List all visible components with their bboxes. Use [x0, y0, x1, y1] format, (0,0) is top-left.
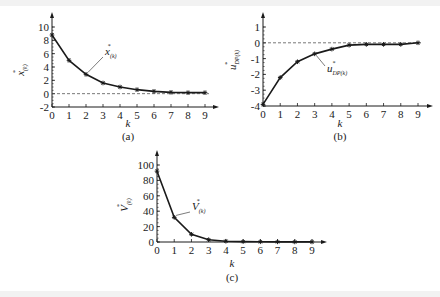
x-tick-label: 7 [168, 109, 174, 121]
annotation-leader [88, 57, 103, 72]
asterisk-marker-icon [155, 169, 160, 174]
chart-panel-c: 0123456789020406080100V(k)*V(k)*k(c) [116, 150, 327, 284]
x-tick-label: 2 [189, 244, 195, 256]
x-tick-label: 6 [258, 244, 264, 256]
asterisk-marker-icon [398, 42, 403, 47]
asterisk-marker-icon [330, 47, 335, 52]
y-tick-label: 10 [38, 21, 50, 33]
x-tick-label: 3 [312, 108, 318, 120]
x-axis-label: k [230, 257, 236, 269]
x-tick-label: 5 [346, 108, 352, 120]
asterisk-marker-icon [186, 90, 191, 95]
chart-panel-a: 0123456789-20246810x(k)*x(k)*k(a) [12, 12, 219, 143]
y-axis-arrow-icon [155, 150, 159, 156]
y-axis-label: x(k)* [12, 64, 29, 77]
x-axis-label: k [338, 117, 344, 129]
y-tick-label: 80 [143, 174, 155, 186]
asterisk-marker-icon [416, 41, 421, 46]
y-tick-label: 4 [44, 61, 50, 73]
y-axis-label: uDP(k)* [224, 50, 241, 70]
chart-panel-b: 0123456789-4-3-2-101uDP(k)*uDP(k)*k(b) [224, 12, 433, 143]
asterisk-marker-icon [152, 89, 157, 94]
x-tick-label: 6 [151, 109, 157, 121]
asterisk-marker-icon [275, 240, 280, 245]
x-tick-label: 0 [49, 109, 55, 121]
x-tick-label: 1 [66, 109, 72, 121]
asterisk-marker-icon [364, 42, 369, 47]
series-annotation: x(k)* [104, 43, 117, 60]
y-tick-label: 40 [143, 205, 155, 217]
x-tick-label: 8 [185, 109, 191, 121]
asterisk-marker-icon [206, 237, 211, 242]
annotation-leader [176, 212, 190, 215]
x-tick-label: 5 [240, 244, 246, 256]
y-tick-label: -2 [251, 68, 260, 80]
y-tick-label: -2 [40, 101, 49, 113]
x-tick-label: 4 [329, 108, 335, 120]
y-tick-label: 0 [149, 236, 155, 248]
x-tick-label: 4 [117, 109, 123, 121]
asterisk-marker-icon [169, 90, 174, 95]
y-tick-label: 60 [143, 190, 155, 202]
x-tick-label: 4 [223, 244, 229, 256]
x-tick-label: 7 [381, 108, 387, 120]
y-tick-label: 8 [44, 34, 50, 46]
x-axis-arrow-icon [427, 104, 433, 108]
y-tick-label: 6 [44, 48, 50, 60]
asterisk-marker-icon [224, 239, 229, 244]
y-axis-arrow-icon [261, 12, 265, 18]
asterisk-marker-icon [135, 87, 140, 92]
y-axis-arrow-icon [50, 12, 54, 18]
x-tick-label: 0 [260, 108, 266, 120]
asterisk-marker-icon [50, 33, 55, 38]
y-tick-label: 0 [44, 88, 50, 100]
x-tick-label: 9 [309, 244, 315, 256]
y-tick-label: -1 [251, 53, 260, 65]
asterisk-marker-icon [347, 43, 352, 48]
series-line [52, 35, 205, 93]
y-tick-label: 100 [138, 159, 155, 171]
y-tick-label: -4 [251, 100, 261, 112]
x-tick-label: 0 [154, 244, 160, 256]
x-axis-arrow-icon [321, 240, 327, 244]
asterisk-marker-icon [258, 239, 263, 244]
asterisk-marker-icon [84, 72, 89, 77]
x-axis-label: k [126, 117, 132, 129]
series-line [157, 171, 312, 242]
asterisk-marker-icon [292, 240, 297, 245]
x-tick-label: 8 [292, 244, 298, 256]
x-axis-arrow-icon [213, 105, 219, 109]
asterisk-marker-icon [101, 81, 106, 86]
x-tick-label: 6 [364, 108, 370, 120]
series-annotation: V(k)* [192, 198, 205, 215]
x-tick-label: 7 [275, 244, 281, 256]
asterisk-marker-icon [203, 90, 208, 95]
asterisk-marker-icon [172, 215, 177, 220]
asterisk-marker-icon [278, 75, 283, 80]
y-tick-label: 1 [255, 21, 261, 33]
x-tick-label: 8 [398, 108, 404, 120]
x-tick-label: 3 [206, 244, 212, 256]
asterisk-marker-icon [118, 85, 123, 90]
asterisk-marker-icon [381, 42, 386, 47]
y-axis-label: V(k)* [116, 198, 133, 211]
x-tick-label: 9 [415, 108, 421, 120]
x-tick-label: 1 [277, 108, 283, 120]
y-tick-label: 2 [44, 74, 50, 86]
asterisk-marker-icon [241, 239, 246, 244]
panel-caption: (c) [226, 271, 239, 284]
series-annotation: uDP(k)* [327, 60, 347, 77]
asterisk-marker-icon [312, 52, 317, 57]
panel-caption: (b) [334, 130, 347, 143]
y-tick-label: 0 [255, 37, 261, 49]
y-tick-label: -3 [251, 84, 261, 96]
annotation-leader [317, 56, 325, 66]
asterisk-marker-icon [261, 102, 266, 107]
y-tick-label: 20 [143, 221, 155, 233]
x-tick-label: 1 [171, 244, 177, 256]
x-tick-label: 3 [100, 109, 106, 121]
panel-caption: (a) [122, 130, 135, 143]
x-tick-label: 2 [295, 108, 301, 120]
figure: 0123456789-20246810x(k)*x(k)*k(a) 012345… [0, 0, 440, 297]
x-tick-label: 2 [83, 109, 89, 121]
